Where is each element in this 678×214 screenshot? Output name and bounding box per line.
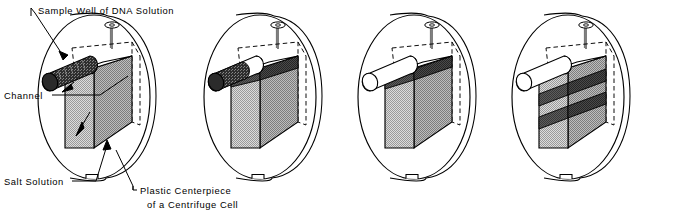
- screw-cap: [579, 22, 593, 49]
- label-sample-well: Sample Well of DNA Solution: [38, 5, 174, 16]
- panel-sedimenting: [358, 13, 476, 181]
- figure-canvas: Sample Well of DNA Solution Channel Salt…: [0, 0, 678, 214]
- panel-loaded: [38, 13, 156, 181]
- screw-cap: [425, 22, 439, 49]
- label-salt-solution: Salt Solution: [4, 176, 64, 187]
- panel-layering: [204, 13, 322, 181]
- leader-sample-well-arrow: [59, 51, 68, 60]
- panel-banded: [512, 13, 630, 181]
- label-centerpiece-line1: Plastic Centerpiece: [140, 185, 231, 196]
- screw-cap: [105, 22, 119, 49]
- screw-cap: [271, 22, 285, 49]
- label-channel: Channel: [4, 90, 43, 101]
- salt-solution-side-face: [94, 56, 132, 148]
- centrifuge-cell-figure: Sample Well of DNA Solution Channel Salt…: [0, 0, 678, 214]
- label-centerpiece-line2: of a Centrifuge Cell: [147, 199, 238, 210]
